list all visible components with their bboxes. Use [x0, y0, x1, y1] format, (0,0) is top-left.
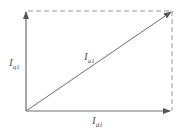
vector-diagram: Iq1 Ia1 Id1	[0, 0, 180, 131]
ia1-label: Ia1	[83, 50, 95, 65]
iq1-label: Iq1	[8, 56, 20, 71]
id1-label: Id1	[91, 114, 103, 129]
ia1-vector-arrow	[26, 12, 171, 111]
